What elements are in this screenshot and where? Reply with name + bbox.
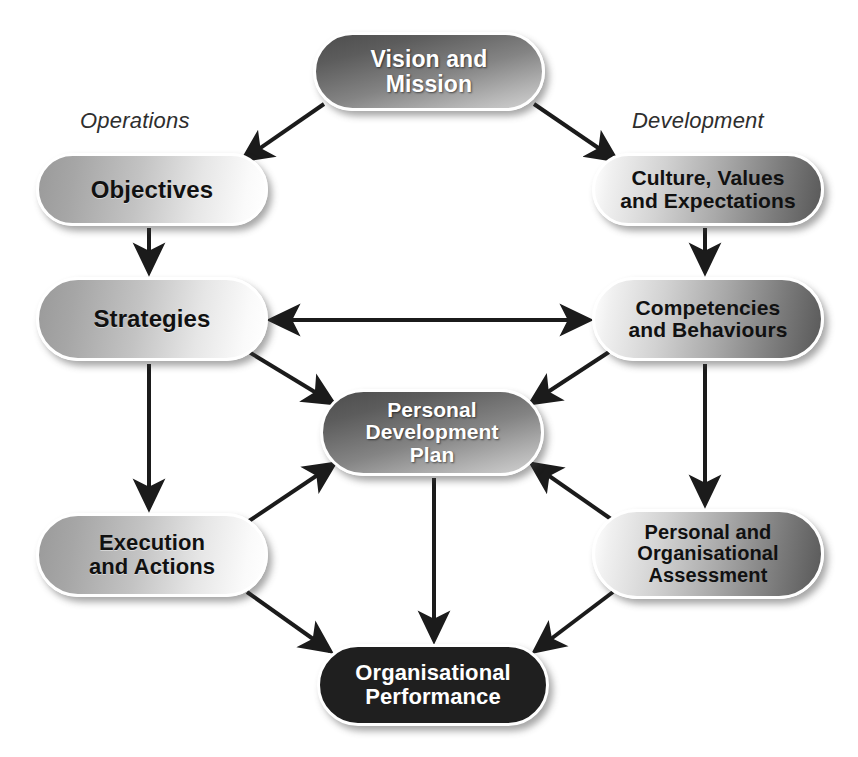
edge-execution-to-pdp xyxy=(249,464,334,521)
node-organisational-performance[interactable]: Organisational Performance xyxy=(317,644,549,726)
node-label: Personal Development Plan xyxy=(356,399,509,466)
node-label: Execution and Actions xyxy=(79,531,225,578)
node-competencies-and-behaviours[interactable]: Competencies and Behaviours xyxy=(592,277,824,361)
node-label: Culture, Values and Expectations xyxy=(610,167,805,212)
node-execution-and-actions[interactable]: Execution and Actions xyxy=(36,513,268,597)
column-label-operations: Operations xyxy=(80,108,190,134)
edge-competencies-to-pdp xyxy=(531,352,609,403)
node-strategies[interactable]: Strategies xyxy=(36,277,268,361)
node-vision-and-mission[interactable]: Vision and Mission xyxy=(313,32,545,111)
edge-assessment-to-pdp xyxy=(532,464,611,519)
node-objectives[interactable]: Objectives xyxy=(36,153,268,226)
node-label: Objectives xyxy=(81,177,223,203)
column-label-development: Development xyxy=(632,108,764,134)
edge-assessment-to-performance xyxy=(535,592,613,651)
node-culture-values-and-expectations[interactable]: Culture, Values and Expectations xyxy=(592,153,824,226)
node-label: Competencies and Behaviours xyxy=(619,297,798,342)
node-label: Strategies xyxy=(83,306,220,332)
node-personal-development-plan[interactable]: Personal Development Plan xyxy=(320,389,544,476)
node-label: Personal and Organisational Assessment xyxy=(627,522,788,586)
edge-execution-to-performance xyxy=(247,592,330,651)
edge-vision-to-objectives xyxy=(243,104,324,160)
node-personal-and-organisational-assessment[interactable]: Personal and Organisational Assessment xyxy=(592,509,824,599)
diagram-canvas: Operations Development Vision and Missio… xyxy=(0,0,858,757)
edge-strategies-to-pdp xyxy=(249,352,333,403)
edge-vision-to-culture xyxy=(534,104,616,160)
node-label: Organisational Performance xyxy=(345,661,520,708)
node-label: Vision and Mission xyxy=(361,47,498,96)
